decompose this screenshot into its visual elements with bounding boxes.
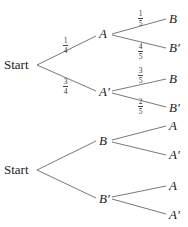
tree1-node-a: A <box>99 27 107 40</box>
tree2-node-b-prime: B′ <box>99 192 110 205</box>
tree-branches <box>0 0 188 227</box>
tree2-node-b-a: A <box>169 119 177 132</box>
tree1-node-a-prime-b-prime: B′ <box>169 101 180 114</box>
prob-start-a: 14 <box>63 37 68 54</box>
prob-a-prime-b: 35 <box>138 67 143 84</box>
branch-b-prime-a-prime <box>112 199 166 214</box>
tree1-node-a-b-prime: B′ <box>169 41 180 54</box>
branch-b-prime-a <box>112 186 166 197</box>
branch-b-a <box>112 126 166 140</box>
prob-a-b: 15 <box>138 10 143 27</box>
tree2-node-b: B <box>99 134 107 147</box>
tree1-start-node: Start <box>4 58 29 71</box>
tree1-node-a-prime: A′ <box>99 85 110 98</box>
prob-a-prime-b-prime: 25 <box>138 98 143 115</box>
tree1-node-a-prime-b: B <box>169 72 177 85</box>
tree2-node-b-prime-a-prime: A′ <box>169 208 180 221</box>
branch-start-b <box>37 141 96 170</box>
branch-b-a-prime <box>112 142 166 155</box>
tree1-node-a-b: B <box>169 12 177 25</box>
branch-start-b-prime <box>37 170 96 198</box>
tree2-start-node: Start <box>4 163 29 176</box>
tree2-node-b-prime-a: A <box>169 179 177 192</box>
tree2-node-b-a-prime: A′ <box>169 148 180 161</box>
prob-start-a-prime: 34 <box>63 78 68 95</box>
prob-a-b-prime: 45 <box>138 43 143 60</box>
